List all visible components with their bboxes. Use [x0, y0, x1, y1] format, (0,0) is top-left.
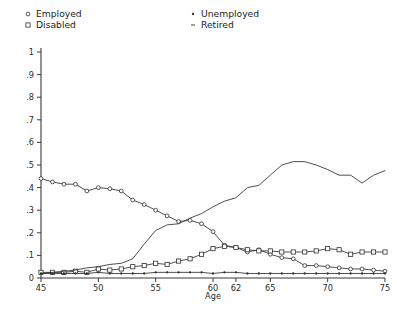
- data-point-marker: [291, 250, 295, 254]
- y-axis-tick-label: 0: [29, 273, 34, 283]
- data-point-marker: [142, 263, 146, 267]
- data-point-marker: [211, 247, 215, 251]
- y-axis-tick-label: 1: [29, 47, 34, 57]
- dot-marker-icon: [192, 13, 194, 15]
- legend-entry: Retired: [191, 19, 234, 30]
- data-point-marker: [177, 271, 179, 273]
- data-point-marker: [268, 249, 272, 253]
- circle-marker-icon: [26, 12, 30, 16]
- data-point-marker: [384, 272, 386, 274]
- data-point-marker: [97, 271, 99, 273]
- data-point-marker: [96, 186, 100, 190]
- data-point-marker: [154, 261, 158, 265]
- chart-series: [39, 177, 387, 273]
- data-point-marker: [326, 265, 330, 269]
- data-point-marker: [165, 214, 169, 218]
- data-point-marker: [211, 230, 215, 234]
- data-point-marker: [281, 272, 283, 274]
- data-point-marker: [74, 182, 78, 186]
- x-axis-tick-label: 50: [93, 283, 103, 293]
- legend-entry: Disabled: [26, 19, 76, 30]
- data-point-marker: [372, 268, 376, 272]
- data-point-marker: [119, 189, 123, 193]
- legend-entry: Unemployed: [192, 8, 259, 19]
- data-point-marker: [200, 222, 204, 226]
- data-point-marker: [258, 272, 260, 274]
- legend-label: Unemployed: [201, 8, 259, 19]
- x-axis-tick-label: 62: [231, 283, 241, 293]
- data-point-marker: [349, 252, 353, 256]
- data-point-marker: [235, 271, 237, 273]
- data-point-marker: [269, 272, 271, 274]
- chart-series: [40, 271, 386, 274]
- data-point-marker: [199, 252, 203, 256]
- y-axis-tick-label: .1: [26, 250, 34, 260]
- y-axis-tick-label: .6: [26, 137, 34, 147]
- data-point-marker: [223, 271, 225, 273]
- data-point-marker: [326, 247, 330, 251]
- data-point-marker: [131, 265, 135, 269]
- data-point-marker: [361, 272, 363, 274]
- x-axis-title: Age: [205, 291, 221, 301]
- y-axis-tick-label: .7: [26, 115, 34, 125]
- y-axis-tick-label: .8: [26, 92, 34, 102]
- data-point-marker: [155, 271, 157, 273]
- data-point-marker: [371, 250, 375, 254]
- chart-series: [39, 244, 387, 274]
- data-point-marker: [314, 264, 318, 268]
- data-point-marker: [234, 245, 238, 249]
- square-marker-icon: [26, 23, 30, 27]
- data-point-marker: [291, 257, 295, 261]
- x-axis-tick-label: 65: [265, 283, 275, 293]
- data-point-marker: [257, 249, 261, 253]
- y-axis-tick-label: .3: [26, 205, 34, 215]
- chart-series-layer: [39, 162, 387, 275]
- y-axis-tick-label: .4: [26, 183, 34, 193]
- chart-figure: EmployedDisabledUnemployedRetired 0.1.2.…: [0, 0, 397, 312]
- data-point-marker: [372, 272, 374, 274]
- data-point-marker: [142, 203, 146, 207]
- chart-series: [41, 162, 385, 274]
- x-axis-tick-label: 45: [36, 283, 46, 293]
- data-point-marker: [212, 272, 214, 274]
- legend-label: Retired: [201, 19, 234, 30]
- y-axis-tick-label: .2: [26, 228, 34, 238]
- x-axis-tick-label: 55: [150, 283, 160, 293]
- data-point-marker: [303, 264, 307, 268]
- data-point-marker: [383, 250, 387, 254]
- series-path: [41, 179, 385, 272]
- data-point-marker: [119, 267, 123, 271]
- data-point-marker: [337, 266, 341, 270]
- chart-svg: EmployedDisabledUnemployedRetired 0.1.2.…: [0, 0, 397, 312]
- data-point-marker: [360, 250, 364, 254]
- data-point-marker: [120, 272, 122, 274]
- data-point-marker: [51, 180, 55, 184]
- data-point-marker: [280, 250, 284, 254]
- data-point-marker: [108, 268, 112, 272]
- data-point-marker: [132, 272, 134, 274]
- data-point-marker: [154, 208, 158, 212]
- axis-frame: [41, 48, 385, 278]
- y-axis-tick-label: .5: [26, 160, 34, 170]
- data-point-marker: [62, 182, 66, 186]
- data-point-marker: [337, 248, 341, 252]
- data-point-marker: [338, 272, 340, 274]
- data-point-marker: [177, 259, 181, 263]
- data-point-marker: [245, 248, 249, 252]
- data-point-marker: [314, 249, 318, 253]
- chart-axes: 0.1.2.3.4.5.6.7.8.914550556062657075: [26, 47, 390, 293]
- data-point-marker: [131, 198, 135, 202]
- chart-legend: EmployedDisabledUnemployedRetired: [26, 8, 259, 30]
- data-point-marker: [360, 267, 364, 271]
- data-point-marker: [315, 272, 317, 274]
- data-point-marker: [108, 187, 112, 191]
- data-point-marker: [85, 189, 89, 193]
- data-point-marker: [143, 272, 145, 274]
- data-point-marker: [349, 272, 351, 274]
- y-axis-tick-label: .9: [26, 70, 34, 80]
- x-axis-tick-label: 70: [322, 283, 332, 293]
- data-point-marker: [280, 256, 284, 260]
- data-point-marker: [304, 272, 306, 274]
- legend-label: Disabled: [36, 19, 76, 30]
- data-point-marker: [166, 271, 168, 273]
